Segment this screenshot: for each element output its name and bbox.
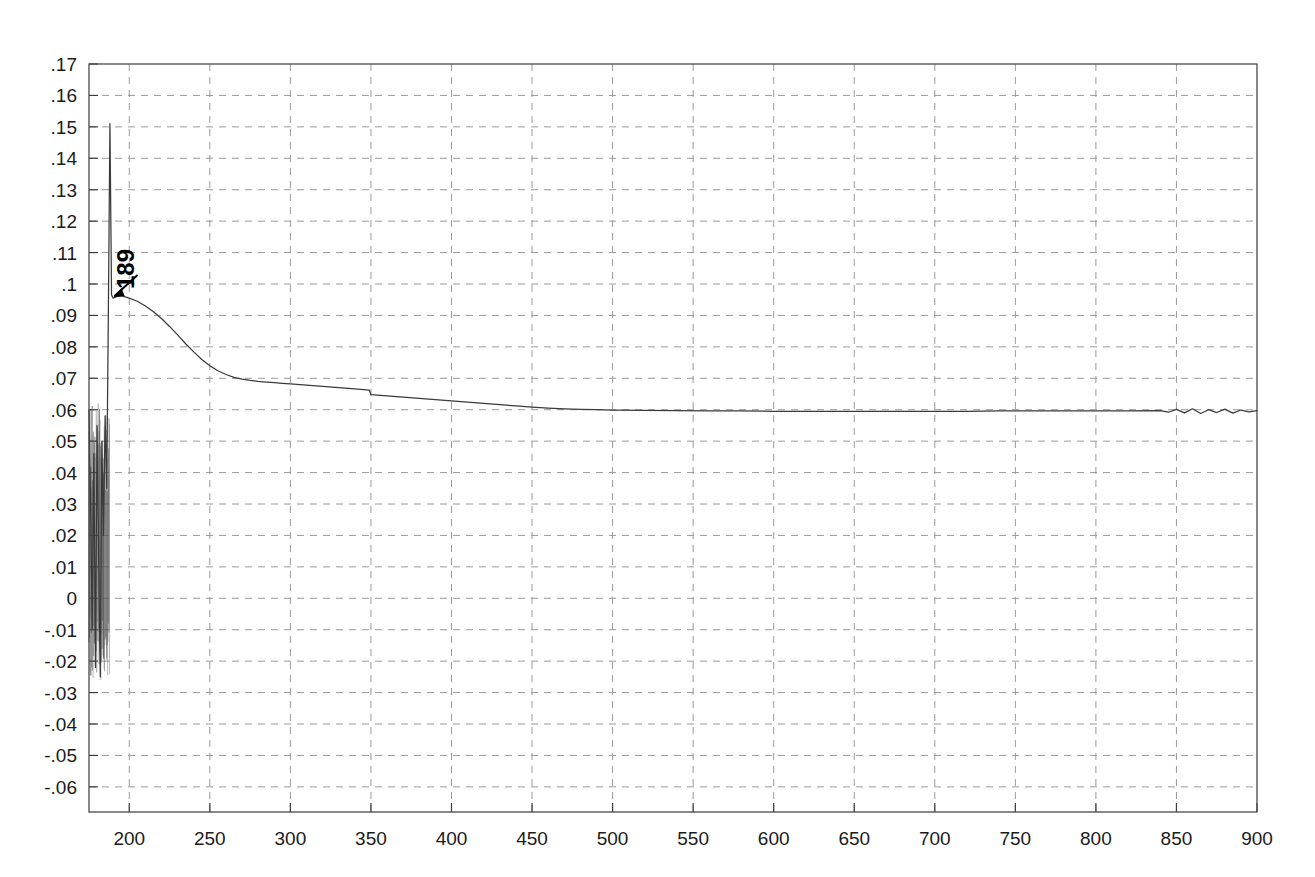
x-tick-label: 500 [597,828,629,849]
y-tick-label: -.03 [44,683,77,704]
line-chart: .17.16.15.14.13.12.11.1.09.08.07.06.05.0… [0,0,1315,877]
annotation-layer: 189 [112,249,139,297]
x-axis-tick-labels: 2002503003504004505005506006507007508008… [113,828,1272,849]
x-tick-label: 900 [1241,828,1273,849]
x-tick-label: 250 [194,828,226,849]
y-tick-label: .04 [51,463,78,484]
x-tick-label: 750 [999,828,1031,849]
x-tick-label: 200 [113,828,145,849]
x-tick-label: 350 [355,828,387,849]
y-tick-label: .14 [51,148,78,169]
x-tick-label: 550 [677,828,709,849]
y-tick-label: -.04 [44,714,77,735]
y-tick-label: .1 [61,274,77,295]
y-tick-label: .08 [51,337,77,358]
y-tick-label: .01 [51,557,77,578]
x-tick-label: 650 [838,828,870,849]
x-tick-label: 800 [1080,828,1112,849]
x-tick-label: 450 [516,828,548,849]
x-tick-label: 700 [919,828,951,849]
y-tick-label: .13 [51,180,77,201]
y-tick-label: .05 [51,431,77,452]
y-tick-label: -.01 [44,620,77,641]
y-tick-label: .07 [51,368,77,389]
x-tick-label: 600 [758,828,790,849]
y-tick-label: -.05 [44,745,77,766]
y-tick-label: .12 [51,211,77,232]
x-tick-label: 850 [1161,828,1193,849]
y-tick-label: .06 [51,400,77,421]
y-tick-label: 0 [66,588,77,609]
x-tick-label: 400 [436,828,468,849]
chart-background [0,0,1315,877]
y-tick-label: .16 [51,85,77,106]
y-tick-label: .11 [52,243,77,264]
y-tick-label: .03 [51,494,77,515]
y-tick-label: .17 [51,54,77,75]
y-tick-label: .02 [51,525,77,546]
x-tick-label: 300 [275,828,307,849]
chart-container: .17.16.15.14.13.12.11.1.09.08.07.06.05.0… [0,0,1315,877]
y-tick-label: -.02 [44,651,77,672]
annotation-label-189: 189 [112,249,139,289]
y-tick-label: .15 [51,117,77,138]
y-tick-label: .09 [51,305,77,326]
y-tick-label: -.06 [44,777,77,798]
